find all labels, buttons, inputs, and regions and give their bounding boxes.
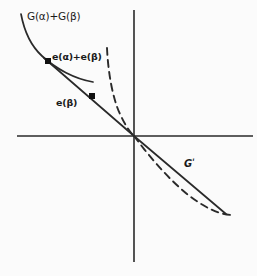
label-e-beta: e(β)	[56, 98, 77, 108]
label-sum-of-G: G(α)+G(β)	[27, 11, 80, 22]
line-G-prime	[134, 136, 226, 214]
curve-sum-of-G	[21, 14, 93, 82]
point-e-beta-marker	[89, 93, 95, 99]
point-sum-e-marker	[45, 58, 51, 64]
figure-canvas: G(α)+G(β) e(α)+e(β) e(β) Gʹ	[0, 0, 257, 276]
curves-group	[21, 14, 233, 215]
label-sum-of-e: e(α)+e(β)	[52, 52, 102, 62]
label-G-prime: Gʹ	[184, 159, 195, 169]
curve-dashed-upper-branch	[107, 48, 134, 136]
geometry-diagram	[0, 0, 257, 276]
